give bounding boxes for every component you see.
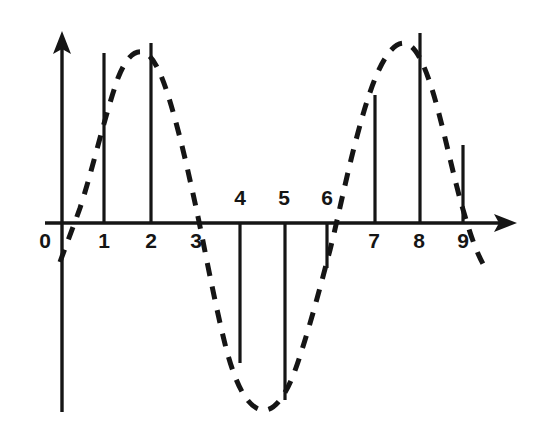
tick-label-3: 3 <box>190 229 202 252</box>
tick-label-9: 9 <box>457 229 469 252</box>
tick-label-2: 2 <box>145 229 157 252</box>
tick-label-6: 6 <box>321 186 333 209</box>
tick-label-8: 8 <box>413 229 425 252</box>
tick-label-7: 7 <box>368 229 380 252</box>
tick-label-0: 0 <box>39 229 51 252</box>
tick-label-4: 4 <box>234 186 246 209</box>
sine-impulse-plot: 0 1 2 3 4 5 6 7 8 9 <box>0 0 540 447</box>
figure-canvas: 0 1 2 3 4 5 6 7 8 9 <box>0 0 540 447</box>
tick-label-1: 1 <box>98 229 110 252</box>
tick-label-5: 5 <box>278 186 290 209</box>
